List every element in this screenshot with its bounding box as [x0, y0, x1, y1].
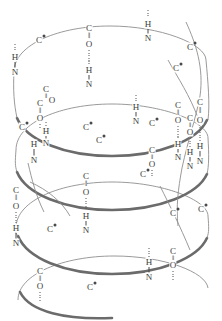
atom-label-o: O — [169, 261, 176, 270]
atom-label-n: N — [12, 239, 19, 248]
atom-label-c: C — [96, 136, 103, 145]
atom-label-n: N — [174, 153, 181, 162]
atom-label-h: H — [186, 148, 193, 157]
atom-label-n: N — [30, 156, 37, 165]
atom-label-h: H — [30, 140, 37, 149]
atom-label-c: C — [13, 186, 20, 195]
turn3-back-arc — [16, 182, 208, 228]
side-chain-dot-icon — [102, 134, 105, 137]
atom-label-h: H — [144, 20, 151, 29]
side-chain-dot-icon — [53, 223, 56, 226]
atom-label-o: O — [186, 128, 193, 137]
atom-label-c: C — [36, 36, 43, 45]
hbond-4 — [200, 127, 201, 141]
side-chain-dot-icon — [179, 62, 182, 65]
turn4-front-arc — [20, 292, 112, 318]
alpha-helix-figure: ‖ ‖ ‖ ‖ ‖ ‖ ‖ ‖ ‖ ‖ ‖ CCOHNHNCCHNCOCOHNH… — [0, 0, 222, 321]
atom-label-o: O — [148, 160, 155, 169]
atom-label-o: O — [174, 116, 181, 125]
atom-label-o: O — [48, 96, 55, 105]
atom-label-n: N — [196, 157, 203, 166]
side-chain-dot-icon — [193, 41, 196, 44]
hbond-3 — [178, 126, 179, 139]
atom-label-c: C — [43, 85, 50, 94]
atom-label-n: N — [11, 68, 18, 77]
atom-label-o: O — [82, 188, 89, 197]
atom-label-h: H — [42, 127, 49, 136]
atom-label-c: C — [140, 170, 147, 179]
side-chain-dot-icon — [93, 281, 96, 284]
atom-label-h: H — [145, 258, 152, 267]
right-riser-1 — [206, 60, 209, 120]
atom-label-c: C — [149, 119, 156, 128]
atom-label-c: C — [86, 24, 93, 33]
hbond-2 — [40, 124, 41, 128]
atom-label-c: C — [149, 146, 156, 155]
hbond-10 — [173, 271, 174, 280]
right-outer-strand-top — [186, 22, 201, 96]
atom-label-c: C — [170, 247, 177, 256]
atom-label-c: C — [19, 123, 26, 132]
atom-label-o: O — [36, 282, 43, 291]
atom-label-o: O — [196, 116, 203, 125]
atom-label-o: O — [85, 40, 92, 49]
hbond-7 — [16, 212, 17, 223]
atom-label-c: C — [175, 101, 182, 110]
side-chain-dot-icon — [89, 121, 92, 124]
atom-label-n: N — [85, 80, 92, 89]
right-riser-3 — [207, 216, 209, 238]
atom-label-n: N — [145, 273, 152, 282]
atom-label-c: C — [187, 43, 194, 52]
hbond-9 — [40, 292, 41, 301]
atom-label-h: H — [12, 224, 19, 233]
side-chain-dot-icon — [204, 203, 207, 206]
atom-label-n: N — [186, 162, 193, 171]
atom-label-h: H — [11, 53, 18, 62]
atom-label-n: N — [82, 226, 89, 235]
right-riser-2 — [207, 138, 209, 174]
atom-label-c: C — [47, 225, 54, 234]
side-chain-dot-icon — [25, 121, 28, 124]
atom-label-n: N — [42, 139, 49, 148]
side-chain-dot-icon — [146, 168, 149, 171]
atom-label-h: H — [196, 142, 203, 151]
atom-label-c: C — [37, 267, 44, 276]
atom-label-n: N — [144, 34, 151, 43]
side-chain-dot-icon — [176, 207, 179, 210]
atom-label-h: H — [174, 140, 181, 149]
atom-label-c: C — [197, 98, 204, 107]
atom-label-c: C — [198, 205, 205, 214]
atom-label-c: C — [83, 172, 90, 181]
hbond-14 — [152, 170, 153, 177]
atom-label-c: C — [87, 283, 94, 292]
atom-label-o: O — [36, 114, 43, 123]
left-riser-2 — [15, 150, 17, 172]
atom-label-c: C — [187, 114, 194, 123]
atom-label-c: C — [170, 209, 177, 218]
atom-label-h: H — [85, 66, 92, 75]
atom-label-h: H — [132, 103, 139, 112]
hbond-6 — [86, 198, 87, 211]
atom-label-c: C — [37, 99, 44, 108]
atom-label-n: N — [132, 117, 139, 126]
atom-label-o: O — [12, 202, 19, 211]
atom-label-c: C — [173, 64, 180, 73]
atom-label-h: H — [82, 212, 89, 221]
coil-side-connectors — [14, 22, 209, 250]
hbond-12 — [148, 10, 149, 18]
side-chain-dot-icon — [42, 34, 45, 37]
side-chain-dot-icon — [155, 117, 158, 120]
atom-label-c: C — [83, 123, 90, 132]
left-riser-1 — [14, 72, 17, 118]
